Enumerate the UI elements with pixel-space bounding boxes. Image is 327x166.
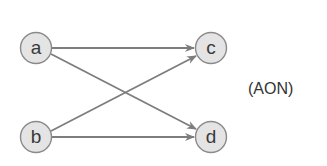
node-a: a — [21, 33, 52, 64]
edge-b-c — [51, 56, 196, 131]
svg-text:c: c — [206, 37, 216, 58]
node-c: c — [196, 33, 227, 64]
edge-a-d — [51, 54, 196, 129]
node-d: d — [196, 122, 227, 153]
node-b: b — [21, 122, 52, 153]
diagram-caption: (AON) — [248, 80, 293, 98]
svg-text:a: a — [31, 37, 42, 58]
svg-text:b: b — [31, 126, 42, 147]
svg-text:d: d — [206, 126, 217, 147]
